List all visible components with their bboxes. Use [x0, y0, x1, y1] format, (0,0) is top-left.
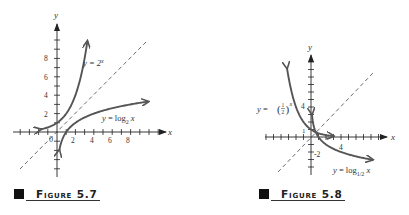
svg-text:x: x — [289, 101, 293, 107]
curve-half-pow-x — [287, 68, 334, 136]
figure-5-7-caption: Figure 5.7 — [14, 189, 98, 199]
x-tick-4: 4 — [339, 143, 343, 152]
svg-text:1: 1 — [282, 102, 285, 108]
svg-text:2: 2 — [282, 109, 285, 115]
y-tick-6: 6 — [44, 73, 48, 82]
y-tick-neg2: -2 — [314, 150, 320, 159]
figure-5-7: y x 0 2 4 6 8 2 4 6 8 y = 2x y = log2 x — [13, 10, 172, 177]
origin-label: 0 — [49, 135, 53, 144]
caption-rule — [271, 200, 345, 201]
caption-text: Figure 5.7 — [36, 189, 98, 199]
caption-square-icon — [14, 189, 24, 199]
x-tick-6: 6 — [108, 136, 112, 145]
x-tick-2: 2 — [71, 136, 75, 145]
x-axis-label: x — [390, 132, 395, 142]
y-tick-4: 4 — [44, 91, 48, 100]
svg-text:y =: y = — [256, 104, 268, 114]
caption-rule — [26, 200, 100, 201]
figure-5-8-caption: Figure 5.8 — [259, 189, 343, 199]
y-tick-1: 1 — [302, 127, 306, 135]
y-tick-8: 8 — [44, 54, 48, 63]
label-log2-x: y = log2 x — [101, 113, 135, 125]
x-tick-8: 8 — [126, 136, 130, 145]
label-2-pow-x: y = 2x — [82, 58, 104, 69]
y-axis-label: y — [53, 10, 58, 20]
svg-text:(: ( — [277, 103, 281, 116]
caption-text: Figure 5.8 — [281, 189, 343, 199]
y-axis-label: y — [307, 42, 312, 52]
label-half-pow-x: y = ( 1 2 ) x — [256, 101, 293, 116]
figures-canvas: y x 0 2 4 6 8 2 4 6 8 y = 2x y = log2 x … — [0, 0, 409, 215]
y-tick-4: 4 — [301, 102, 305, 111]
label-log-half-x: y = log1/2 x — [332, 165, 370, 177]
x-axis-label: x — [167, 127, 172, 137]
x-tick-4: 4 — [90, 136, 94, 145]
y-tick-2: 2 — [44, 110, 48, 119]
figure-5-8: y x 4 4 1 -2 y = ( 1 2 ) x y = log1/2 x — [256, 42, 395, 177]
caption-square-icon — [259, 189, 269, 199]
